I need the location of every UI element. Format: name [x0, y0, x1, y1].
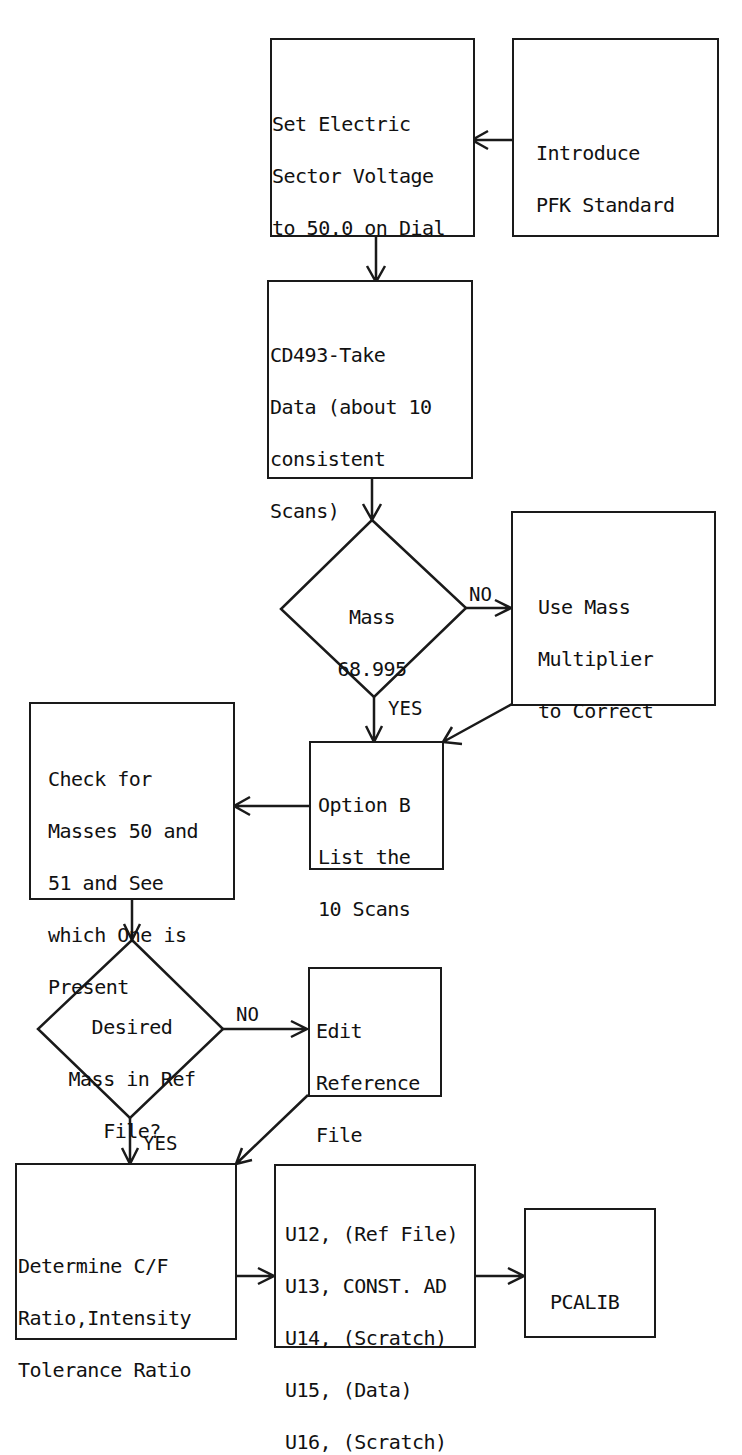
text-line: Reference	[316, 1070, 420, 1096]
text-line: Introduce	[536, 140, 675, 166]
text-line: 68.995	[300, 656, 444, 682]
text-line: PCALIB	[550, 1289, 619, 1315]
arrow-edit-to-determine	[236, 1095, 308, 1164]
arrow-desired-no	[222, 1021, 307, 1037]
text-line: Check for	[48, 766, 198, 792]
step-mass-multiplier-text: Use Mass Multiplier to Correct	[538, 568, 653, 724]
text-line: Sector Voltage	[272, 163, 445, 189]
text-line: Masses 50 and	[48, 818, 198, 844]
text-line: Use Mass	[538, 594, 653, 620]
step-edit-reference-text: Edit Reference File	[316, 992, 420, 1148]
text-line: Determine C/F	[18, 1253, 191, 1279]
step-check-masses-text: Check for Masses 50 and 51 and See which…	[48, 740, 198, 1000]
step-set-voltage-text: Set Electric Sector Voltage to 50.0 on D…	[272, 85, 445, 241]
arrow-mass-yes	[366, 697, 382, 742]
text-line: Multiplier	[538, 646, 653, 672]
text-line: which One is	[48, 922, 198, 948]
text-line: Edit	[316, 1018, 420, 1044]
text-line: U14, (Scratch)	[285, 1325, 458, 1351]
text-line: 51 and See	[48, 870, 198, 896]
step-take-data-text: CD493-Take Data (about 10 consistent Sca…	[270, 316, 432, 524]
edge-label-desired-yes: YES	[143, 1132, 177, 1154]
text-line: Mass	[300, 604, 444, 630]
step-unit-assignments-text: U12, (Ref File) U13, CONST. AD U14, (Scr…	[285, 1195, 458, 1455]
text-line: to 50.0 on Dial	[272, 215, 445, 241]
text-line: Tolerance Ratio	[18, 1357, 191, 1383]
text-line: File?	[42, 1118, 222, 1144]
arrow-determine-to-units	[236, 1268, 274, 1284]
text-line: U16, (Scratch)	[285, 1429, 458, 1455]
text-line: Desired	[42, 1014, 222, 1040]
step-option-b-text: Option B List the 10 Scans	[318, 766, 410, 922]
arrow-voltage-to-data	[367, 236, 385, 282]
decision-mass-text: Mass 68.995	[300, 578, 444, 682]
text-line: U12, (Ref File)	[285, 1221, 458, 1247]
text-line: Scans)	[270, 498, 432, 524]
arrow-units-to-pcalib	[475, 1268, 524, 1284]
text-line: U13, CONST. AD	[285, 1273, 458, 1299]
text-line: Data (about 10	[270, 394, 432, 420]
text-line: Mass in Ref	[42, 1066, 222, 1092]
text-line: List the	[318, 844, 410, 870]
text-line: consistent	[270, 446, 432, 472]
text-line: File	[316, 1122, 420, 1148]
text-line: CD493-Take	[270, 342, 432, 368]
text-line: 10 Scans	[318, 896, 410, 922]
text-line: Option B	[318, 792, 410, 818]
edge-label-desired-no: NO	[236, 1003, 259, 1025]
decision-desired-mass-text: Desired Mass in Ref File?	[42, 988, 222, 1144]
edge-label-mass-no: NO	[469, 583, 492, 605]
text-line: PFK Standard	[536, 192, 675, 218]
text-line: Set Electric	[272, 111, 445, 137]
step-introduce-pfk-text: Introduce PFK Standard	[536, 114, 675, 218]
arrow-multiplier-to-optionb	[443, 704, 512, 744]
text-line: U15, (Data)	[285, 1377, 458, 1403]
text-line: to Correct	[538, 698, 653, 724]
step-pcalib-text: PCALIB	[550, 1263, 619, 1315]
arrow-pfk-to-voltage	[472, 131, 513, 149]
arrow-optionb-to-check	[234, 797, 310, 815]
edge-label-mass-yes: YES	[388, 697, 422, 719]
step-determine-ratio-text: Determine C/F Ratio,Intensity Tolerance …	[18, 1227, 191, 1383]
text-line: Ratio,Intensity	[18, 1305, 191, 1331]
